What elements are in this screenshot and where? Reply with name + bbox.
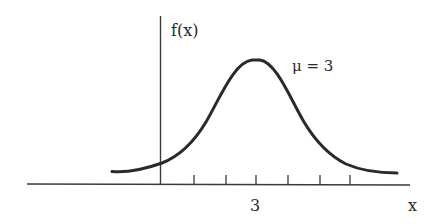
x-axis-ticks (194, 175, 350, 185)
x-axis (27, 184, 410, 185)
density-curve (112, 60, 397, 173)
x-tick-label-3: 3 (250, 196, 260, 215)
mu-annotation: μ = 3 (292, 57, 333, 75)
x-axis-label: x (408, 196, 417, 215)
normal-distribution-chart: f(x) μ = 3 3 x (0, 0, 436, 224)
y-axis-label: f(x) (171, 21, 198, 40)
